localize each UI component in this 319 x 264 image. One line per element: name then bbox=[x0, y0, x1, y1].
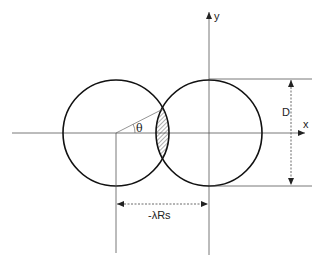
theta-arc bbox=[133, 124, 135, 133]
diameter-label: D bbox=[282, 106, 290, 118]
separation-label: -λRs bbox=[148, 209, 171, 221]
overlapping-circles-diagram: y x θ D -λRs bbox=[0, 0, 319, 264]
theta-label: θ bbox=[136, 122, 143, 135]
y-axis-label: y bbox=[214, 10, 220, 22]
x-axis-label: x bbox=[303, 118, 309, 130]
